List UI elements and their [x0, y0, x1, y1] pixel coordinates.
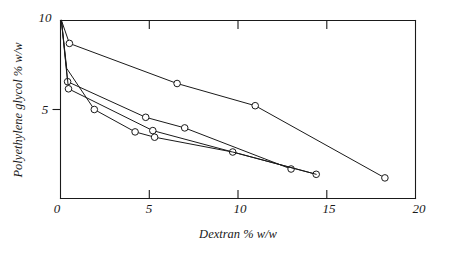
data-point: [150, 127, 157, 134]
data-point: [151, 134, 158, 141]
data-point: [382, 175, 389, 182]
top-axis-ticks: [149, 21, 326, 30]
series-binodal-3-line: [61, 20, 316, 174]
series-binodal-4: [61, 20, 316, 174]
data-point: [132, 129, 139, 136]
data-point: [91, 106, 98, 113]
series-binodal-3: [61, 20, 319, 177]
phase-diagram-plot: 0 5 10 15 20 5 10 Dextran % w/w Polyethy…: [0, 0, 449, 257]
series-binodal-1-line: [61, 20, 385, 178]
data-point: [66, 40, 73, 47]
series-binodal-4-line: [61, 20, 316, 174]
x-tick-label-5: 5: [146, 201, 153, 216]
x-tick-label-0: 0: [54, 201, 61, 216]
x-tick-label-15: 15: [323, 201, 337, 216]
x-axis-label: Dextran % w/w: [198, 227, 277, 241]
series-binodal-2-line: [61, 20, 291, 169]
series-binodal-2: [61, 20, 294, 172]
data-point: [142, 114, 149, 121]
data-point: [65, 86, 72, 93]
data-point: [174, 80, 181, 87]
x-tick-label-10: 10: [234, 201, 248, 216]
data-point: [181, 125, 188, 132]
y-tick-label-5: 5: [42, 102, 49, 117]
data-point: [252, 102, 259, 109]
chart-figure: 0 5 10 15 20 5 10 Dextran % w/w Polyethy…: [0, 0, 449, 257]
y-tick-label-10: 10: [39, 10, 53, 25]
x-tick-label-20: 20: [413, 201, 427, 216]
y-axis-label: Polyethylene glycol % w/w: [11, 42, 25, 179]
x-axis-ticks: [149, 190, 326, 199]
axis-frame: [61, 21, 416, 199]
